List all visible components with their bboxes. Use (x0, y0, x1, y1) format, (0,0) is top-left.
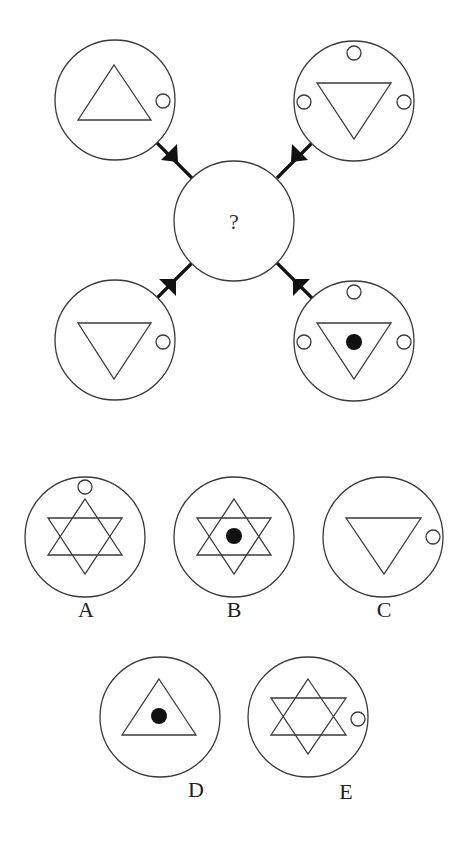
outer-circle (294, 41, 414, 161)
figure-top-right (294, 41, 414, 161)
figure-bottom-left (55, 280, 175, 400)
option-a[interactable] (25, 477, 145, 597)
option-label-c[interactable]: C (377, 599, 392, 621)
figure-top-left (55, 40, 175, 160)
outer-circle (55, 280, 175, 400)
option-e[interactable] (248, 657, 368, 777)
arrow-top-right-icon (291, 144, 308, 162)
arrow-top-left-icon (161, 144, 178, 162)
option-b[interactable] (174, 477, 294, 597)
option-label-e[interactable]: E (339, 781, 352, 803)
center-dot-icon (151, 708, 167, 724)
puzzle-canvas: ? A B C D E (0, 0, 465, 841)
puzzle-diagram (0, 0, 465, 841)
option-label-b[interactable]: B (227, 599, 242, 621)
center-dot-icon (226, 528, 242, 544)
outer-circle (248, 657, 368, 777)
option-d[interactable] (100, 657, 220, 777)
center-dot-icon (346, 334, 362, 350)
outer-circle (323, 477, 443, 597)
option-label-d[interactable]: D (188, 779, 204, 801)
option-c[interactable] (323, 477, 443, 597)
outer-circle (55, 40, 175, 160)
question-mark: ? (229, 211, 239, 233)
option-label-a[interactable]: A (78, 599, 94, 621)
figure-bottom-right (294, 281, 414, 401)
outer-circle (25, 477, 145, 597)
